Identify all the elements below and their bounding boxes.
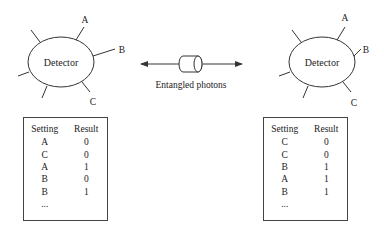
result-cell: 1 — [306, 161, 348, 173]
right-setting-c-tick — [343, 82, 351, 92]
result-cell: 0 — [306, 136, 348, 148]
left-results-table: Setting Result A 0 C 0 A 1 B 0 B — [23, 117, 108, 221]
table-row: A 1 — [24, 161, 107, 173]
result-cell: 1 — [306, 186, 348, 198]
setting-cell: A — [24, 136, 66, 148]
photon-source: Entangled photons — [141, 56, 242, 90]
setting-cell: B — [24, 173, 66, 185]
table-row-ellipsis: ... — [24, 198, 107, 210]
table-row: B 0 — [24, 173, 107, 185]
right-detector: Detector A B C — [279, 13, 369, 108]
right-setting-c-label: C — [351, 98, 357, 108]
right-tick-unlabeled — [303, 86, 308, 98]
setting-cell: A — [24, 161, 66, 173]
result-cell: 0 — [66, 173, 108, 185]
result-cell: 0 — [66, 136, 108, 148]
right-setting-b-label: B — [363, 45, 369, 55]
left-setting-c-tick — [82, 82, 90, 92]
result-cell: 0 — [306, 148, 348, 160]
setting-cell: C — [264, 148, 306, 160]
left-detector-label: Detector — [44, 57, 79, 68]
table-row: C 0 — [24, 148, 107, 160]
setting-cell: C — [24, 148, 66, 160]
left-setting-c-label: C — [90, 97, 96, 107]
result-cell: 1 — [66, 161, 108, 173]
result-cell: 1 — [66, 186, 108, 198]
table-row: B 1 — [24, 186, 107, 198]
left-setting-b-tick — [93, 49, 115, 56]
left-setting-b-label: B — [119, 45, 125, 55]
setting-cell: B — [264, 186, 306, 198]
table-row: A 0 — [24, 136, 107, 148]
right-setting-a-label: A — [342, 13, 349, 23]
left-header-setting: Setting — [24, 123, 66, 136]
result-cell: 1 — [306, 173, 348, 185]
table-row: B 1 — [264, 161, 347, 173]
left-tick-unlabeled — [31, 30, 40, 42]
left-tick-unlabeled — [42, 86, 47, 98]
result-cell: 0 — [66, 148, 108, 160]
left-setting-a-label: A — [82, 15, 89, 25]
ellipsis-cell: ... — [264, 198, 306, 210]
right-detector-label: Detector — [305, 57, 340, 68]
source-label: Entangled photons — [156, 80, 227, 90]
right-results-table: Setting Result C 0 C 0 B 1 A 1 B — [263, 117, 348, 221]
setting-cell: A — [264, 173, 306, 185]
setting-cell: B — [24, 186, 66, 198]
setting-cell: C — [264, 136, 306, 148]
setting-cell: B — [264, 161, 306, 173]
right-tick-unlabeled — [292, 30, 301, 42]
table-row-ellipsis: ... — [264, 198, 347, 210]
left-setting-a-tick — [76, 27, 84, 40]
right-header-setting: Setting — [264, 123, 306, 136]
table-row: B 1 — [264, 186, 347, 198]
left-tick-unlabeled — [18, 72, 29, 76]
right-setting-a-tick — [337, 27, 345, 40]
left-header-result: Result — [66, 123, 108, 136]
right-setting-b-tick — [354, 49, 361, 56]
table-row: A 1 — [264, 173, 347, 185]
left-detector: Detector A B C — [18, 15, 125, 107]
table-row: C 0 — [264, 148, 347, 160]
table-row: C 0 — [264, 136, 347, 148]
right-tick-unlabeled — [279, 72, 290, 76]
right-header-result: Result — [306, 123, 348, 136]
ellipsis-cell: ... — [24, 198, 66, 210]
photon-source-cylinder-icon — [179, 56, 202, 72]
